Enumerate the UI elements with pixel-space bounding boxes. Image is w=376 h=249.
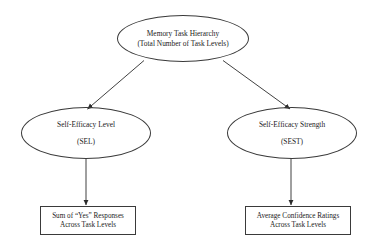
node-self-efficacy-strength-label: Self-Efficacy Strength (259, 120, 325, 129)
node-self-efficacy-level-abbrev: (SEL) (77, 137, 95, 146)
edge-root-to-sel (88, 61, 145, 110)
node-memory-task-hierarchy: Memory Task Hierarchy (Total Number of T… (117, 15, 249, 62)
node-average-confidence-ratings-line2: Across Task Levels (270, 221, 326, 230)
node-self-efficacy-level-label: Self-Efficacy Level (57, 120, 115, 129)
node-self-efficacy-level: Self-Efficacy Level (SEL) (21, 107, 151, 159)
node-self-efficacy-strength: Self-Efficacy Strength (SEST) (227, 107, 357, 159)
node-memory-task-hierarchy-line1: Memory Task Hierarchy (147, 29, 219, 39)
node-average-confidence-ratings: Average Confidence Ratings Across Task L… (245, 206, 351, 235)
node-sum-of-yes-responses-line1: Sum of “Yes” Responses (52, 212, 124, 221)
edge-root-to-sest (223, 61, 290, 110)
diagram-canvas: Memory Task Hierarchy (Total Number of T… (0, 0, 376, 249)
node-memory-task-hierarchy-line2: (Total Number of Task Levels) (137, 39, 228, 49)
node-self-efficacy-strength-abbrev: (SEST) (281, 137, 303, 146)
node-sum-of-yes-responses: Sum of “Yes” Responses Across Task Level… (40, 206, 136, 235)
node-sum-of-yes-responses-line2: Across Task Levels (60, 221, 116, 230)
node-average-confidence-ratings-line1: Average Confidence Ratings (257, 212, 340, 221)
